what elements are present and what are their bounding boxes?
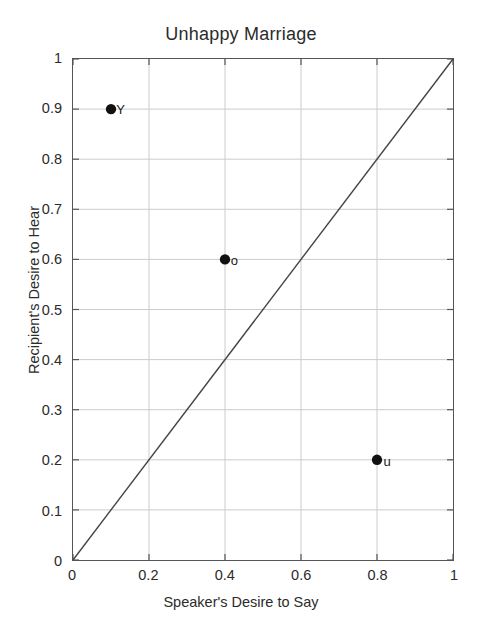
y-axis-title: Recipient's Desire to Hear xyxy=(26,170,42,410)
y-axis-tick-label: 0.9 xyxy=(0,100,62,116)
data-point-label: u xyxy=(384,454,391,469)
x-axis-tick-label: 0.2 xyxy=(138,567,158,583)
x-axis-tick-label: 1 xyxy=(450,567,458,583)
x-axis-tick-label: 0.8 xyxy=(368,567,388,583)
chart-figure: Unhappy Marriage 00.10.20.30.40.50.60.70… xyxy=(0,0,482,632)
data-point-label: o xyxy=(231,253,238,268)
y-axis-tick-label: 0.8 xyxy=(0,151,62,167)
x-axis-tick-label: 0.6 xyxy=(291,567,311,583)
x-axis-title: Speaker's Desire to Say xyxy=(0,594,482,610)
y-axis-tick-label: 1 xyxy=(0,50,62,66)
data-point-label: Y xyxy=(116,102,125,117)
y-axis-tick-labels: 00.10.20.30.40.50.60.70.80.91 xyxy=(0,0,482,632)
y-axis-tick-label: 0.1 xyxy=(0,503,62,519)
x-axis-tick-label: 0 xyxy=(68,567,76,583)
x-axis-tick-label: 0.4 xyxy=(215,567,235,583)
y-axis-tick-label: 0 xyxy=(0,553,62,569)
y-axis-tick-label: 0.2 xyxy=(0,452,62,468)
